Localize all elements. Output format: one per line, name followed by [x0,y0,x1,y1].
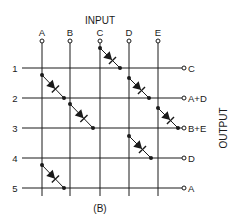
output-label-vertical: OUTPUT [218,107,229,148]
row-4: 4 D [12,153,195,165]
input-column-c: C [97,27,104,196]
output-label: A [188,183,195,194]
input-column-a: A [39,27,46,196]
diode-matrix-diagram: INPUT A B C D E 1 [0,0,237,221]
input-terminal-icon [40,39,44,43]
output-terminal-icon [182,156,186,160]
input-terminal-icon [127,39,131,43]
output-terminal-icon [182,66,186,70]
diode-e-to-row-3 [156,106,180,130]
column-label: E [155,27,161,38]
output-terminal-icon [182,186,186,190]
diode-a-to-row-2 [40,73,66,100]
output-terminal-icon [182,96,186,100]
row-label: 5 [12,183,17,194]
row-1: 1 C [12,63,195,75]
input-label: INPUT [85,15,115,26]
column-label: C [97,27,104,38]
diode-b-to-row-3 [68,102,95,130]
row-label: 1 [12,63,17,74]
input-columns: A B C D E [39,27,161,196]
input-column-b: B [67,27,73,196]
figure-caption: (B) [93,203,106,214]
column-label: A [39,27,46,38]
column-label: B [67,27,73,38]
input-terminal-icon [156,39,160,43]
output-label: D [188,153,195,164]
output-terminal-icon [182,126,186,130]
input-column-d: D [126,27,133,196]
output-label: A+D [188,93,207,104]
output-label: C [188,63,195,74]
input-terminal-icon [98,39,102,43]
input-terminal-icon [68,39,72,43]
diode-c-to-row-1 [98,46,122,70]
input-column-e: E [155,27,161,196]
diode-a-to-row-5 [40,163,66,190]
diode-d-to-row-4 [127,134,153,160]
row-label: 4 [12,153,17,164]
row-label: 2 [12,93,17,104]
row-5: 5 A [12,183,195,195]
diode-d-to-row-2 [127,76,151,100]
column-label: D [126,27,133,38]
row-label: 3 [12,123,17,134]
output-label: B+E [188,123,206,134]
